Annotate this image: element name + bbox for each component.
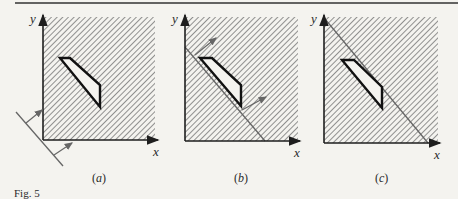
arrow-icon <box>26 110 42 123</box>
subfigure-label-a: (a) <box>92 172 106 184</box>
figure-caption: Fig. 5 <box>14 188 40 199</box>
x-axis-label-c: x <box>434 148 440 161</box>
x-axis-label-a: x <box>153 145 159 158</box>
hatched-region <box>43 17 155 140</box>
x-axis-label-b: x <box>294 146 300 159</box>
subfigure-label-b: (b) <box>234 172 248 184</box>
panel-b <box>185 15 300 141</box>
figure-canvas <box>0 0 458 199</box>
arrow-icon <box>54 143 72 155</box>
panel-c <box>324 15 440 143</box>
y-axis-label-c: y <box>311 12 317 25</box>
y-axis-label-a: y <box>30 12 36 25</box>
hatched-region <box>185 17 298 141</box>
y-axis-label-b: y <box>172 12 178 25</box>
subfigure-label-c: (c) <box>375 172 388 184</box>
panel-a <box>16 15 158 166</box>
hatched-region <box>324 17 438 143</box>
